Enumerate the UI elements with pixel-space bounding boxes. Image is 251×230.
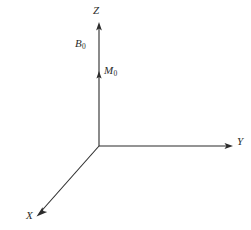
b0-subscript: 0 [82, 42, 86, 51]
b0-symbol: B [75, 37, 82, 49]
x-axis-line [41, 146, 99, 212]
m0-magnetization-label: M0 [104, 65, 117, 76]
coordinate-axes-figure: Z B0 M0 Y X [0, 0, 251, 230]
axes-drawing [0, 0, 251, 230]
m0-subscript: 0 [114, 69, 118, 78]
z-axis-label: Z [93, 5, 99, 16]
x-axis-label: X [26, 210, 33, 221]
m0-symbol: M [104, 64, 113, 76]
b0-field-label: B0 [75, 38, 86, 49]
y-axis-label: Y [237, 136, 243, 147]
x-axis-arrowhead [37, 207, 48, 216]
